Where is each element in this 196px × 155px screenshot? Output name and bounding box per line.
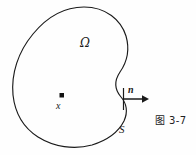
normal-vector-label-n: n	[128, 85, 134, 95]
point-label-x: x	[56, 101, 60, 111]
boundary-curve-path	[13, 7, 128, 147]
figure-drawing	[0, 0, 196, 155]
surface-label-s: S	[119, 124, 125, 135]
region-label-omega: Ω	[80, 37, 90, 49]
figure-container: Ω x n S 图 3-7	[0, 0, 196, 155]
normal-arrow-head	[142, 95, 149, 103]
interior-point-dot	[60, 93, 65, 98]
figure-caption: 图 3-7	[155, 116, 187, 126]
